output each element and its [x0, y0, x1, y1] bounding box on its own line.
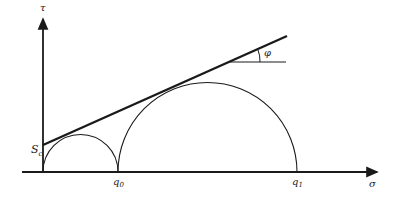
mohr-circle-large — [118, 82, 297, 172]
phi-label: φ — [264, 47, 271, 58]
failure-envelope — [43, 36, 287, 145]
mohr-diagram: τ σ φ Sc q0 q1 — [0, 0, 393, 198]
sigma-label: σ — [369, 178, 377, 189]
sc-label: Sc — [31, 143, 43, 158]
q0-label: q0 — [113, 176, 124, 189]
q1-label: q1 — [292, 176, 303, 189]
tau-label: τ — [40, 2, 46, 13]
angle-arc — [258, 50, 260, 62]
